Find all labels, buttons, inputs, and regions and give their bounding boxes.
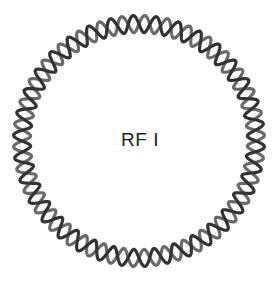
circular-dna-diagram bbox=[0, 0, 278, 285]
